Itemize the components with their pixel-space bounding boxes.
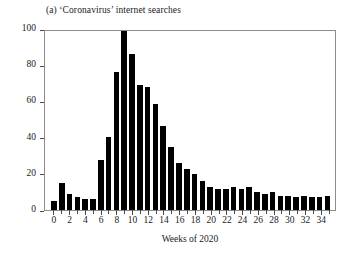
bar-slot [159,31,167,210]
bar-slot [89,31,97,210]
x-axis-label: Weeks of 2020 [44,234,336,244]
bar-slot [300,31,308,210]
bar-slot [97,31,105,210]
bar-slot [222,31,230,210]
y-tick-label: 40 [27,132,37,142]
x-tick-mark [77,210,78,214]
bar [239,189,245,210]
x-tick-mark [203,210,204,214]
x-tick-mark [297,210,298,214]
bar-slot [277,31,285,210]
bar [51,201,57,210]
x-tick-mark [171,210,172,214]
bar-slot [136,31,144,210]
bar [121,31,127,210]
figure-coronavirus-internet-searches: (a) ‘Coronavirus’ internet searches Inte… [0,0,350,253]
bar-slot [214,31,222,210]
x-tick-mark [266,210,267,214]
x-tick-mark [61,210,62,214]
bar [246,187,252,210]
bar [231,187,237,210]
bar-slot [323,31,331,210]
x-tick-mark [234,210,235,214]
bar [309,197,315,210]
bar [129,54,135,210]
bar-slot [50,31,58,210]
bar [262,194,268,210]
y-tick-label: 20 [27,168,37,178]
x-tick-mark [140,210,141,214]
x-tick-mark [281,210,282,214]
x-tick-mark [313,210,314,214]
bar [82,199,88,210]
bar-slot [81,31,89,210]
bar-slot [73,31,81,210]
bar-slot [253,31,261,210]
bar [160,126,166,210]
bar-slot [167,31,175,210]
x-tick-mark [124,210,125,214]
y-tick-label: 60 [27,95,37,105]
bar [75,197,81,210]
bar [317,197,323,210]
bar-slot [120,31,128,210]
bar [59,183,65,210]
bar [270,192,276,210]
bar [90,199,96,210]
chart-title: (a) ‘Coronavirus’ internet searches [46,5,181,15]
bar [301,196,307,210]
bar-slot [292,31,300,210]
bar [153,104,159,210]
bar [137,85,143,210]
x-tick-mark [250,210,251,214]
bar-slot [58,31,66,210]
bar [207,187,213,210]
bar-slot [175,31,183,210]
bar [285,196,291,210]
bar [176,163,182,210]
y-tick-label: 80 [27,59,37,69]
bar [184,169,190,210]
bar-slot [238,31,246,210]
bar-slot [198,31,206,210]
bar [114,72,120,210]
bar [145,87,151,211]
bar [106,137,112,210]
x-tick-mark [187,210,188,214]
bar-slot [206,31,214,210]
x-tick-mark [93,210,94,214]
bar-slot [284,31,292,210]
bar-slot [66,31,74,210]
bar-slot [105,31,113,210]
bar-slot [128,31,136,210]
x-tick-label: 34 [309,215,333,225]
bar-slot [113,31,121,210]
bar [293,197,299,210]
bar [168,147,174,210]
bar [192,174,198,210]
y-tick-label: 100 [22,23,36,33]
bar [254,192,260,210]
x-tick-mark [329,210,330,214]
bar [223,189,229,210]
y-tick-label: 0 [31,204,36,214]
bar-series [45,31,335,210]
bar [325,196,331,210]
bar [67,194,73,210]
bar [200,181,206,210]
bar-slot [191,31,199,210]
bar-slot [316,31,324,210]
bar [278,196,284,210]
plot-area: 0246810121416182022242628303234 [44,30,336,211]
bar-slot [183,31,191,210]
bar-slot [261,31,269,210]
bar [215,189,221,210]
x-tick-mark [156,210,157,214]
x-tick-mark [108,210,109,214]
bar-slot [308,31,316,210]
x-tick-mark [219,210,220,214]
bar-slot [230,31,238,210]
bar [98,160,104,210]
bar-slot [245,31,253,210]
bar-slot [152,31,160,210]
